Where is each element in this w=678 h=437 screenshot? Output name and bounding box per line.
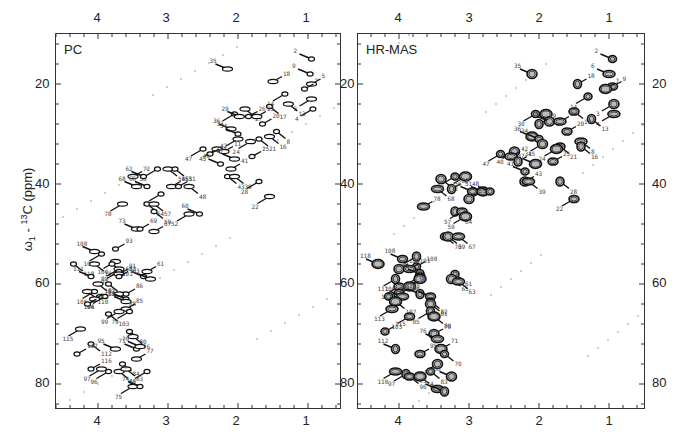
svg-text:18: 18: [283, 70, 291, 77]
omega-symbol: ω: [20, 241, 35, 251]
x-tick-bottom-pc-3: 3: [162, 413, 169, 428]
svg-text:67: 67: [164, 220, 172, 227]
svg-text:79: 79: [112, 318, 120, 325]
svg-text:9: 9: [623, 75, 627, 82]
svg-text:70: 70: [122, 335, 130, 342]
y-tick-left-40: 40: [35, 176, 49, 191]
ylabel-unit: C (ppm): [20, 168, 35, 215]
svg-text:96: 96: [91, 378, 99, 385]
svg-text:37: 37: [518, 152, 526, 159]
svg-text:117: 117: [87, 342, 98, 349]
svg-text:89: 89: [402, 262, 410, 269]
svg-text:11: 11: [234, 140, 242, 147]
svg-text:55: 55: [479, 187, 487, 194]
svg-text:2: 2: [294, 47, 298, 54]
svg-text:101: 101: [420, 257, 431, 264]
svg-text:113: 113: [374, 315, 385, 322]
svg-text:34: 34: [521, 127, 529, 134]
y-tick-right-60: 60: [652, 275, 666, 290]
x-tick-top-pc-4: 4: [93, 10, 100, 25]
y-tick-right-40: 40: [652, 176, 666, 191]
svg-text:108: 108: [385, 247, 396, 254]
svg-text:34: 34: [220, 122, 228, 129]
svg-text:24: 24: [233, 148, 241, 155]
x-tick-top-hrmas-3: 3: [465, 10, 472, 25]
y-tick-mid-60: 60: [340, 275, 354, 290]
y-tick-left-60: 60: [35, 275, 49, 290]
svg-text:56: 56: [455, 180, 463, 187]
svg-text:80: 80: [444, 322, 452, 329]
svg-text:78: 78: [434, 195, 442, 202]
svg-text:26: 26: [259, 105, 267, 112]
svg-text:37: 37: [217, 147, 225, 154]
svg-text:8: 8: [287, 138, 291, 145]
svg-text:66: 66: [129, 175, 137, 182]
svg-text:99: 99: [101, 318, 109, 325]
svg-text:6: 6: [591, 62, 595, 69]
svg-text:20: 20: [577, 120, 585, 127]
svg-text:108: 108: [77, 240, 88, 247]
svg-text:7: 7: [616, 77, 620, 84]
y-tick-left-80: 80: [35, 375, 49, 390]
svg-text:111: 111: [73, 265, 84, 272]
svg-text:86: 86: [136, 282, 144, 289]
peak-plot-hrmas: 2356189714341317273026232920363431816212…: [358, 34, 644, 408]
x-tick-bottom-hrmas-3: 3: [465, 413, 472, 428]
svg-text:95: 95: [98, 337, 106, 344]
svg-text:29: 29: [549, 112, 557, 119]
svg-text:103: 103: [119, 320, 130, 327]
svg-text:81: 81: [108, 290, 116, 297]
svg-text:25: 25: [262, 145, 270, 152]
svg-text:7: 7: [315, 77, 319, 84]
svg-text:72: 72: [143, 165, 151, 172]
svg-text:22: 22: [252, 203, 260, 210]
svg-text:67: 67: [469, 243, 477, 250]
svg-text:115: 115: [395, 320, 406, 327]
svg-text:22: 22: [556, 205, 564, 212]
svg-text:68: 68: [448, 195, 456, 202]
x-tick-bottom-hrmas-4: 4: [394, 413, 401, 428]
svg-text:16: 16: [280, 143, 288, 150]
svg-text:43: 43: [535, 170, 543, 177]
svg-text:47: 47: [483, 160, 491, 167]
omega-subscript: 1: [27, 236, 37, 241]
svg-text:18: 18: [588, 72, 596, 79]
svg-text:78: 78: [105, 210, 113, 217]
svg-text:17: 17: [280, 113, 288, 120]
svg-text:93: 93: [126, 237, 134, 244]
svg-text:63: 63: [469, 288, 477, 295]
y-tick-right-20: 20: [652, 76, 666, 91]
svg-text:112: 112: [101, 350, 112, 357]
x-tick-bottom-pc-4: 4: [93, 413, 100, 428]
svg-text:16: 16: [591, 153, 599, 160]
svg-text:70: 70: [455, 360, 463, 367]
svg-text:59: 59: [448, 223, 456, 230]
svg-text:69: 69: [150, 217, 158, 224]
svg-text:115: 115: [63, 335, 74, 342]
svg-text:20: 20: [273, 112, 281, 119]
x-tick-top-pc-2: 2: [232, 10, 239, 25]
svg-text:68: 68: [119, 175, 127, 182]
svg-text:9: 9: [292, 62, 296, 69]
svg-text:28: 28: [241, 188, 249, 195]
svg-text:35: 35: [210, 57, 218, 64]
svg-text:48: 48: [199, 193, 207, 200]
x-tick-bottom-hrmas-2: 2: [535, 413, 542, 428]
svg-text:116: 116: [101, 357, 112, 364]
x-tick-top-hrmas-1: 1: [605, 10, 612, 25]
svg-text:13: 13: [298, 110, 306, 117]
peak-plot-pc: 2359571814341317273329262320363431816212…: [56, 34, 340, 408]
y-tick-mid-40: 40: [340, 176, 354, 191]
x-tick-bottom-pc-1: 1: [302, 413, 309, 428]
svg-text:88: 88: [402, 282, 410, 289]
svg-text:76: 76: [420, 327, 428, 334]
x-tick-bottom-hrmas-1: 1: [605, 413, 612, 428]
x-tick-top-pc-1: 1: [302, 10, 309, 25]
y-tick-mid-20: 20: [340, 76, 354, 91]
svg-text:73: 73: [119, 217, 127, 224]
svg-text:23: 23: [570, 110, 578, 117]
svg-text:29: 29: [221, 105, 229, 112]
x-tick-top-hrmas-4: 4: [394, 10, 401, 25]
spectrum-panel-pc: PC 2359571814341317273329262320363431816…: [55, 33, 341, 409]
svg-text:21: 21: [269, 145, 277, 152]
